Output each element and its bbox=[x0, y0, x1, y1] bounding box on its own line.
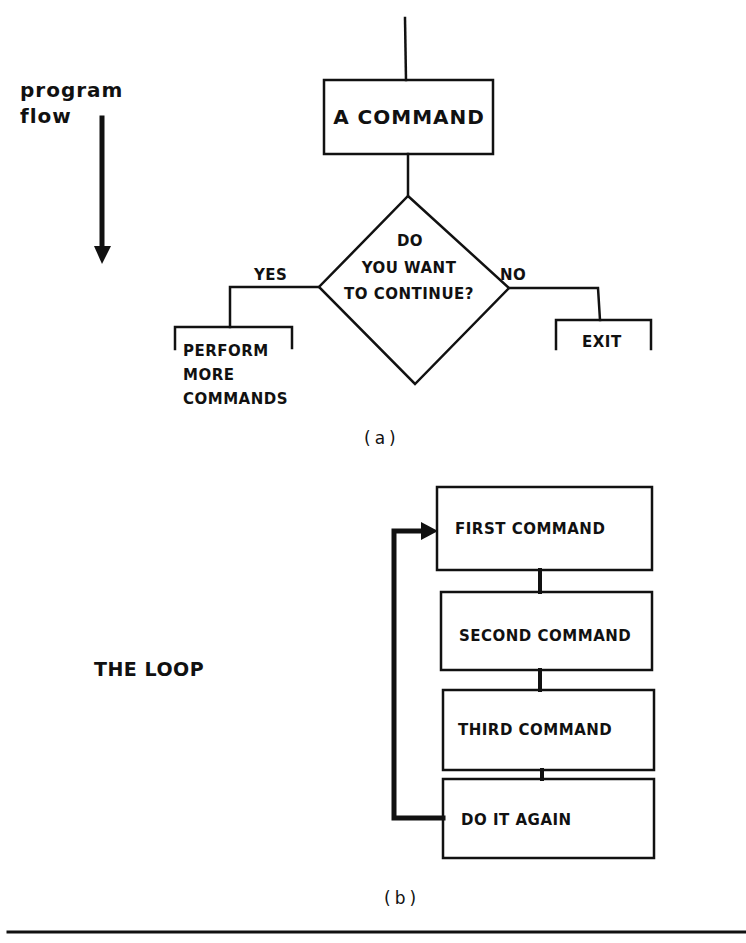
step-label-first: FIRST COMMAND bbox=[455, 520, 605, 538]
down-arrow-icon bbox=[94, 118, 111, 264]
decision-text-line2: YOU WANT bbox=[362, 259, 457, 277]
caption-b: (b) bbox=[384, 888, 420, 908]
decision-text-line1: DO bbox=[397, 232, 423, 250]
perform-more-line3: COMMANDS bbox=[183, 390, 288, 408]
program-flow-label-line1: program bbox=[20, 78, 123, 102]
flowchart-lines bbox=[0, 0, 746, 943]
program-flow-label-line2: flow bbox=[20, 104, 72, 128]
no-label: NO bbox=[500, 266, 526, 284]
step-label-do-it-again: DO IT AGAIN bbox=[461, 811, 572, 829]
exit-label: EXIT bbox=[582, 333, 622, 351]
loop-back-arrow-icon bbox=[394, 522, 443, 818]
decision-text-line3: TO CONTINUE? bbox=[344, 285, 474, 303]
the-loop-title: THE LOOP bbox=[94, 657, 204, 681]
yes-label: YES bbox=[254, 266, 287, 284]
entry-line bbox=[405, 18, 406, 80]
command-box-label: A COMMAND bbox=[333, 105, 485, 129]
step-label-second: SECOND COMMAND bbox=[459, 627, 631, 645]
perform-more-line1: PERFORM bbox=[183, 342, 269, 360]
step-label-third: THIRD COMMAND bbox=[458, 721, 612, 739]
caption-a: (a) bbox=[364, 428, 400, 448]
perform-more-line2: MORE bbox=[183, 366, 234, 384]
